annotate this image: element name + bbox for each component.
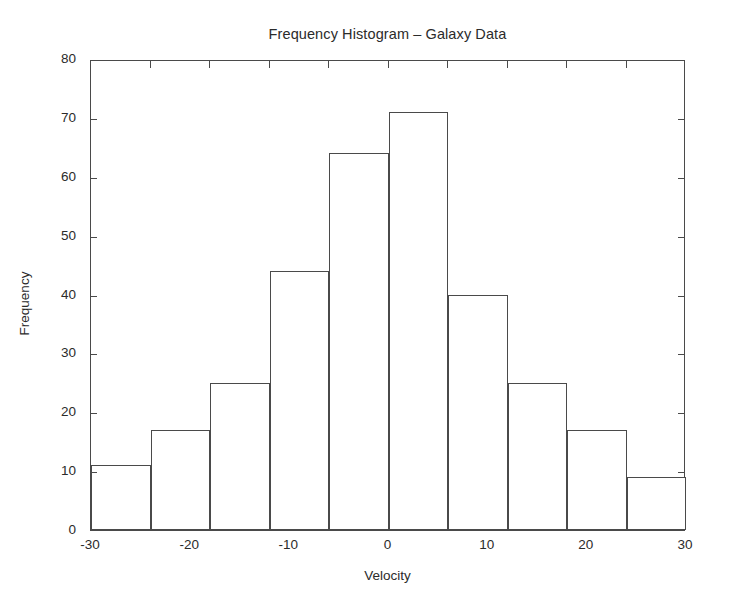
- y-tick-mark: [90, 413, 97, 414]
- y-tick-mark: [90, 354, 97, 355]
- x-axis-label: Velocity: [90, 568, 685, 583]
- x-tick-label: -10: [263, 537, 313, 552]
- x-bin-edge-tick: [566, 524, 567, 531]
- histogram-figure: Frequency Histogram – Galaxy Data 010203…: [0, 0, 731, 616]
- y-tick-mark: [90, 472, 97, 473]
- x-bin-edge-tick: [328, 524, 329, 531]
- x-bin-edge-tick: [626, 524, 627, 531]
- y-tick-label: 70: [36, 110, 76, 125]
- histogram-bar: [627, 477, 687, 530]
- y-tick-label: 50: [36, 228, 76, 243]
- x-bin-edge-tick: [507, 524, 508, 531]
- x-bin-edge-tick: [150, 524, 151, 531]
- histogram-bar: [329, 153, 389, 530]
- y-tick-mark-right: [678, 413, 685, 414]
- y-tick-mark-right: [678, 237, 685, 238]
- y-tick-mark: [90, 237, 97, 238]
- y-tick-label: 30: [36, 345, 76, 360]
- histogram-bar: [270, 271, 330, 530]
- x-tick-label: -20: [164, 537, 214, 552]
- y-tick-mark: [90, 296, 97, 297]
- x-bin-edge-tick-top: [209, 61, 210, 68]
- y-tick-mark-right: [678, 119, 685, 120]
- y-tick-mark: [90, 119, 97, 120]
- x-tick-label: -30: [65, 537, 115, 552]
- y-tick-mark-right: [678, 178, 685, 179]
- y-axis-label: Frequency: [17, 244, 32, 364]
- x-bin-edge-tick-top: [150, 61, 151, 68]
- y-tick-label: 20: [36, 404, 76, 419]
- x-tick-label: 10: [462, 537, 512, 552]
- plot-area: [90, 60, 685, 531]
- y-tick-label: 40: [36, 287, 76, 302]
- y-tick-mark: [90, 178, 97, 179]
- x-tick-label: 30: [660, 537, 710, 552]
- x-bin-edge-tick: [388, 524, 389, 531]
- x-bin-edge-tick-top: [566, 61, 567, 68]
- y-tick-label: 0: [36, 522, 76, 537]
- histogram-bar: [151, 430, 211, 530]
- y-tick-mark-right: [678, 296, 685, 297]
- histogram-bar: [91, 465, 151, 530]
- x-bin-edge-tick-top: [447, 61, 448, 68]
- histogram-bar: [508, 383, 568, 530]
- y-tick-mark-right: [678, 472, 685, 473]
- x-tick-label: 20: [561, 537, 611, 552]
- x-bin-edge-tick: [209, 524, 210, 531]
- histogram-bar: [448, 295, 508, 531]
- x-tick-label: 0: [363, 537, 413, 552]
- x-bin-edge-tick-top: [269, 61, 270, 68]
- x-bin-edge-tick: [269, 524, 270, 531]
- x-bin-edge-tick-top: [626, 61, 627, 68]
- x-bin-edge-tick-top: [507, 61, 508, 68]
- y-tick-label: 10: [36, 463, 76, 478]
- histogram-bar: [210, 383, 270, 530]
- y-tick-label: 80: [36, 51, 76, 66]
- bars-layer: [91, 61, 684, 530]
- x-bin-edge-tick: [447, 524, 448, 531]
- x-bin-edge-tick-top: [328, 61, 329, 68]
- page-title: Frequency Histogram – Galaxy Data: [90, 26, 685, 42]
- x-bin-edge-tick-top: [388, 61, 389, 68]
- y-tick-mark-right: [678, 354, 685, 355]
- histogram-bar: [389, 112, 449, 530]
- y-tick-label: 60: [36, 169, 76, 184]
- histogram-bar: [567, 430, 627, 530]
